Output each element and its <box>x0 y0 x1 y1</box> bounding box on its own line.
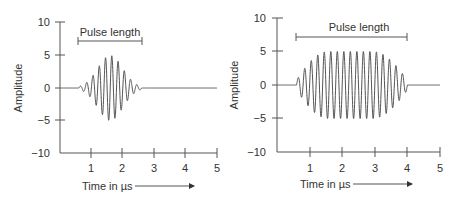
right-xtick-5: 5 <box>437 162 443 174</box>
left-ytick-5: 5 <box>44 49 50 61</box>
left-xtick-1: 1 <box>88 162 94 174</box>
right-ytick-m10: −10 <box>247 146 266 158</box>
right-ytick-m5: −5 <box>253 112 266 124</box>
left-xtick-5: 5 <box>214 162 220 174</box>
figure: 10 5 0 −5 −10 1 2 3 4 5 Amplitude Time i… <box>0 0 456 201</box>
right-xtick-3: 3 <box>372 162 378 174</box>
right-y-label: Amplitude <box>228 61 240 110</box>
left-xtick-3: 3 <box>151 162 157 174</box>
right-ytick-0: 0 <box>260 79 266 91</box>
left-y-label: Amplitude <box>12 64 24 113</box>
left-chart: 10 5 0 −5 −10 1 2 3 4 5 Amplitude Time i… <box>12 16 220 192</box>
left-ytick-10: 10 <box>38 16 50 28</box>
left-ytick-m10: −10 <box>31 147 50 159</box>
right-pulse-label: Pulse length <box>329 21 390 33</box>
right-chart: 10 5 0 −5 −10 1 2 3 4 5 Amplitude Time i… <box>228 12 443 190</box>
left-pulse-label: Pulse length <box>80 26 141 38</box>
left-xtick-2: 2 <box>119 162 125 174</box>
right-ytick-5: 5 <box>260 45 266 57</box>
right-ytick-10: 10 <box>254 12 266 24</box>
right-xtick-4: 4 <box>404 162 410 174</box>
left-waveform <box>60 56 217 121</box>
right-x-label: Time in µs <box>300 178 351 190</box>
right-xtick-1: 1 <box>307 162 313 174</box>
left-x-label: Time in µs <box>82 180 133 192</box>
left-ytick-m5: −5 <box>37 114 50 126</box>
left-xtick-4: 4 <box>182 162 188 174</box>
right-xtick-2: 2 <box>339 162 345 174</box>
right-waveform <box>277 52 440 119</box>
left-ytick-0: 0 <box>44 82 50 94</box>
